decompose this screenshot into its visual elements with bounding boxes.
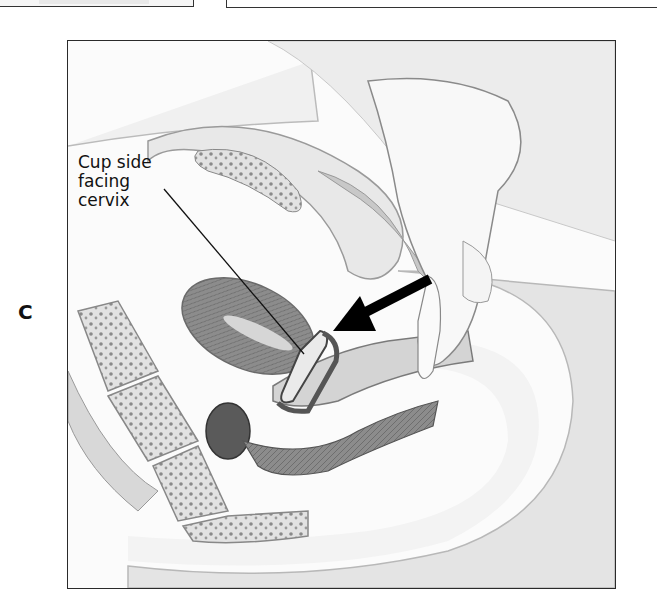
callout-label: Cup side facing cervix (78, 153, 152, 210)
callout-line-1: Cup side (78, 153, 152, 172)
illustration-frame: Cup side facing cervix (67, 40, 616, 589)
sacrum-segment-1 (78, 301, 158, 391)
callout-line-2: facing (78, 172, 152, 191)
anatomical-illustration (68, 41, 615, 588)
panel-a-illustration-fragment (39, 0, 149, 4)
rectum (206, 403, 250, 459)
insertion-arrow (333, 279, 430, 331)
previous-panel-a-fragment (0, 0, 194, 7)
callout-line-3: cervix (78, 191, 152, 210)
panel-label: C (18, 300, 33, 324)
sacrum-segment-2 (108, 376, 198, 461)
previous-panel-b-fragment (226, 0, 657, 8)
coccyx-segment-1 (153, 446, 228, 521)
anal-canal (243, 401, 438, 475)
